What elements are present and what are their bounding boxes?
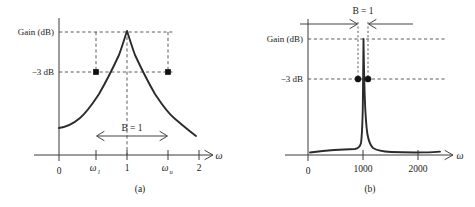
figure-container: B = 1 Gain (dB) −3 dB 0 ω l 1 ω u 2 ω (a… (0, 0, 475, 207)
panel-a-xtick-label-0: 0 (57, 166, 62, 176)
panel-b-xtick-label-0: 0 (306, 166, 311, 176)
panel-a-low-q-response: B = 1 Gain (dB) −3 dB 0 ω l 1 ω u 2 ω (a… (0, 0, 238, 207)
panel-a-xtick-wl-symbol: ω (90, 163, 97, 173)
panel-b-marker-upper-cutoff (365, 76, 371, 82)
panel-b-marker-lower-cutoff (355, 76, 361, 82)
panel-a-gain-label: Gain (dB) (18, 27, 54, 37)
panel-b-xtick-label-1000: 1000 (354, 164, 373, 174)
panel-a-bandwidth-label: B = 1 (121, 123, 142, 133)
panel-b-bandwidth-annotation: B = 1 (300, 6, 413, 29)
panel-a-minus3db-label: −3 dB (32, 67, 54, 77)
panel-b-caption: (b) (364, 184, 375, 195)
panel-a-xtick-label-wu: ω u (162, 163, 174, 175)
panel-a-xtick-wu-symbol: ω (162, 163, 169, 173)
panel-a-x-axis-title: ω (215, 150, 222, 161)
panel-a-response-curve (59, 31, 196, 136)
panel-b-minus3db-label: −3 dB (281, 74, 303, 84)
panel-a-xtick-label-1: 1 (125, 163, 130, 173)
panel-a-marker-upper-cutoff (165, 69, 170, 74)
panel-b-gain-label: Gain (dB) (267, 34, 303, 44)
panel-a-xtick-label-wl: ω l (90, 163, 100, 175)
panel-a-xtick-label-2: 2 (197, 163, 202, 173)
panel-a-marker-lower-cutoff (93, 69, 98, 74)
panel-b-xtick-label-2000: 2000 (409, 164, 428, 174)
panel-a-xtick-wl-subscript: l (98, 168, 100, 175)
panel-a-bandwidth-annotation: B = 1 (97, 123, 168, 141)
panel-b-reference-lines (308, 22, 446, 79)
panel-b-x-axis-title: ω (456, 150, 463, 161)
panel-b-bandwidth-label: B = 1 (352, 6, 373, 16)
panel-a-xtick-wu-subscript: u (169, 168, 173, 175)
panel-b-response-curve (310, 39, 440, 153)
panel-b-high-q-response: B = 1 Gain (dB) −3 dB 0 1000 2000 ω (b) (237, 0, 475, 207)
panel-a-caption: (a) (135, 184, 146, 195)
